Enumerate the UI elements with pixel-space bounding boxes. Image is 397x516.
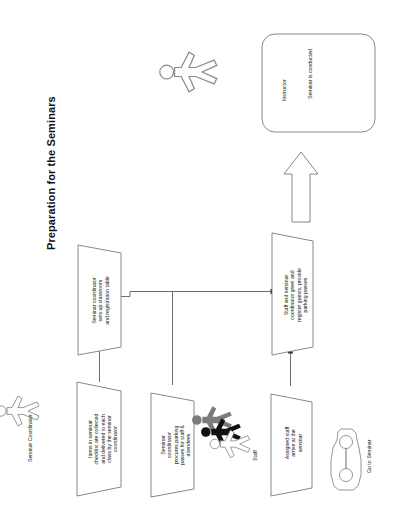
node-text-items-collected: Items in seminar checklist are collected… (87, 390, 119, 488)
node-text-staff-arrive: Assigned staff arrive at the seminar (284, 399, 303, 487)
node-text-procures-parking: Seminar coordinator procures parking pas… (160, 400, 192, 490)
label-go-to-seminar: Go to Seminar (366, 440, 373, 473)
node-line: Seminar is conducted (307, 31, 313, 117)
node-line: coordinator (112, 390, 118, 488)
node-line: parking passes (302, 242, 308, 348)
node-text-sets-up-classroom: Seminar coordinator sets up classroom an… (91, 253, 110, 348)
connector-setup-to-greet (121, 289, 278, 297)
node-text-seminar-conducted: Seminar is conducted (307, 31, 313, 117)
block-arrow-up-icon (284, 152, 318, 222)
label-instructor: Instructor (281, 79, 288, 101)
node-line: attendees (185, 400, 191, 490)
node-text-greet-register: Staff and seminar coordinator greet and … (283, 242, 308, 348)
node-line: seminar (297, 399, 303, 487)
node-seminar-conducted[interactable] (262, 34, 375, 132)
instructor-person-icon (160, 52, 217, 92)
diagram-artwork (0, 0, 397, 516)
car-icon (331, 429, 361, 490)
label-staff: Staff (252, 450, 259, 461)
label-seminar-coordinator: Seminar Coordinator (27, 414, 34, 462)
node-line: and registration table (104, 253, 110, 348)
diagram-canvas: Preparation for the Seminars (0, 0, 397, 516)
